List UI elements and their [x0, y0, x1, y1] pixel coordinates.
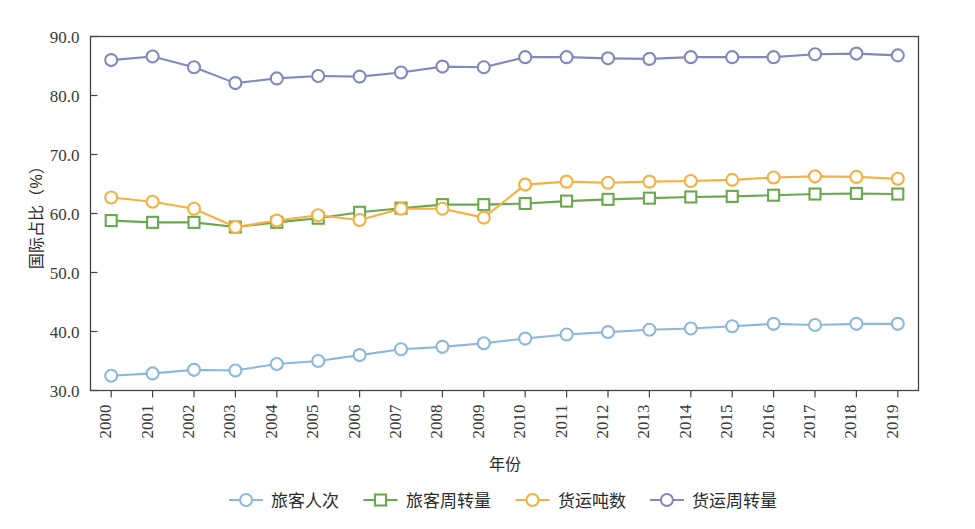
data-point-marker[interactable] — [354, 71, 366, 83]
data-point-marker[interactable] — [105, 370, 117, 382]
data-point-marker[interactable] — [768, 190, 779, 201]
data-point-marker[interactable] — [395, 203, 407, 215]
data-point-marker[interactable] — [726, 51, 738, 63]
data-point-marker[interactable] — [188, 203, 200, 215]
data-point-marker[interactable] — [188, 61, 200, 73]
data-point-marker[interactable] — [271, 358, 283, 370]
chart-legend: 旅客人次旅客周转量货运吨数货运周转量 — [229, 492, 777, 511]
data-point-marker[interactable] — [478, 61, 490, 73]
legend-label: 旅客周转量 — [406, 492, 491, 511]
data-point-marker[interactable] — [768, 172, 780, 184]
y-axis-tick-label: 30.0 — [50, 382, 80, 401]
data-series-layer — [105, 48, 904, 382]
data-point-marker[interactable] — [809, 319, 821, 331]
data-point-marker[interactable] — [851, 188, 862, 199]
data-point-marker[interactable] — [354, 214, 366, 226]
data-point-marker[interactable] — [147, 217, 158, 228]
series-4-markers — [105, 48, 904, 90]
x-axis-tick-label: 2001 — [138, 405, 157, 439]
y-axis-tick-label: 40.0 — [50, 323, 80, 342]
data-point-marker[interactable] — [106, 215, 117, 226]
data-point-marker[interactable] — [810, 189, 821, 200]
data-point-marker[interactable] — [685, 191, 696, 202]
data-point-marker[interactable] — [726, 174, 738, 186]
data-point-marker[interactable] — [354, 349, 366, 361]
data-point-marker[interactable] — [850, 48, 862, 60]
data-point-marker[interactable] — [395, 66, 407, 78]
x-axis-tick-label: 2019 — [883, 405, 902, 439]
data-point-marker[interactable] — [685, 323, 697, 335]
legend-marker-swatch — [527, 494, 539, 506]
series-1-markers — [105, 318, 904, 382]
legend-item-3[interactable]: 货运吨数 — [516, 492, 626, 511]
data-point-marker[interactable] — [809, 48, 821, 60]
data-point-marker[interactable] — [892, 173, 904, 185]
data-point-marker[interactable] — [395, 343, 407, 355]
legend-label: 货运吨数 — [558, 492, 626, 511]
y-axis-tick-label: 50.0 — [50, 264, 80, 283]
legend-item-4[interactable]: 货运周转量 — [650, 492, 777, 511]
data-point-marker[interactable] — [229, 221, 241, 233]
data-point-marker[interactable] — [727, 191, 738, 202]
data-point-marker[interactable] — [561, 196, 572, 207]
data-point-marker[interactable] — [312, 209, 324, 221]
data-point-marker[interactable] — [643, 324, 655, 336]
data-point-marker[interactable] — [643, 53, 655, 65]
data-point-marker[interactable] — [809, 170, 821, 182]
data-point-marker[interactable] — [561, 51, 573, 63]
data-point-marker[interactable] — [229, 77, 241, 89]
data-point-marker[interactable] — [436, 203, 448, 215]
data-point-marker[interactable] — [436, 61, 448, 73]
data-point-marker[interactable] — [519, 179, 531, 191]
data-point-marker[interactable] — [520, 198, 531, 209]
y-axis-tick-label: 80.0 — [50, 87, 80, 106]
plot-frame — [91, 37, 919, 391]
data-point-marker[interactable] — [147, 51, 159, 63]
data-point-marker[interactable] — [271, 215, 283, 227]
data-point-marker[interactable] — [105, 192, 117, 204]
data-point-marker[interactable] — [768, 51, 780, 63]
data-point-marker[interactable] — [147, 367, 159, 379]
x-axis-tick-label: 2013 — [634, 405, 653, 439]
data-point-marker[interactable] — [229, 364, 241, 376]
data-point-marker[interactable] — [147, 196, 159, 208]
data-point-marker[interactable] — [892, 189, 903, 200]
data-point-marker[interactable] — [561, 176, 573, 188]
data-point-marker[interactable] — [643, 176, 655, 188]
data-point-marker[interactable] — [105, 54, 117, 66]
data-point-marker[interactable] — [478, 199, 489, 210]
data-point-marker[interactable] — [312, 70, 324, 82]
data-point-marker[interactable] — [519, 51, 531, 63]
y-axis-title: 国际占比（%） — [28, 158, 45, 268]
x-axis-tick-label: 2002 — [179, 405, 198, 439]
data-point-marker[interactable] — [892, 49, 904, 61]
data-point-marker[interactable] — [850, 171, 862, 183]
x-axis-tick-label: 2006 — [345, 405, 364, 439]
data-point-marker[interactable] — [685, 175, 697, 187]
data-point-marker[interactable] — [519, 333, 531, 345]
data-point-marker[interactable] — [603, 194, 614, 205]
legend-item-1[interactable]: 旅客人次 — [229, 492, 339, 511]
data-point-marker[interactable] — [685, 51, 697, 63]
x-axis-tick-label: 2015 — [717, 405, 736, 439]
data-point-marker[interactable] — [478, 212, 490, 224]
x-axis-title: 年份 — [489, 456, 521, 473]
data-point-marker[interactable] — [312, 355, 324, 367]
x-axis-tick-label: 2010 — [510, 405, 529, 439]
data-point-marker[interactable] — [436, 341, 448, 353]
data-point-marker[interactable] — [602, 177, 614, 189]
legend-item-2[interactable]: 旅客周转量 — [364, 492, 491, 511]
data-point-marker[interactable] — [478, 337, 490, 349]
data-point-marker[interactable] — [644, 193, 655, 204]
data-point-marker[interactable] — [892, 318, 904, 330]
data-point-marker[interactable] — [188, 364, 200, 376]
data-point-marker[interactable] — [850, 318, 862, 330]
data-point-marker[interactable] — [768, 318, 780, 330]
data-point-marker[interactable] — [602, 52, 614, 64]
data-point-marker[interactable] — [726, 320, 738, 332]
data-point-marker[interactable] — [271, 72, 283, 84]
data-point-marker[interactable] — [561, 328, 573, 340]
data-point-marker[interactable] — [189, 217, 200, 228]
data-point-marker[interactable] — [602, 326, 614, 338]
x-axis-tick-label: 2011 — [552, 405, 571, 438]
